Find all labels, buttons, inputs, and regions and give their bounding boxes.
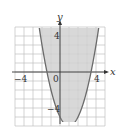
y-tick-neg4: −4 xyxy=(47,104,61,114)
y-tick-4: 4 xyxy=(54,31,60,41)
x-axis-arrow-icon xyxy=(104,70,109,74)
x-axis-label: x xyxy=(110,66,116,77)
x-tick-neg4: −4 xyxy=(14,74,28,84)
x-tick-origin: 0 xyxy=(53,74,59,84)
parabola-graph: x y −4 0 4 4 −4 xyxy=(0,0,120,127)
y-axis-label: y xyxy=(56,11,63,22)
x-tick-4: 4 xyxy=(94,74,100,84)
